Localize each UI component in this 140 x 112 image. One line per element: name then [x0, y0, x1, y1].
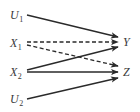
edges: [27, 15, 118, 99]
edge-u2-to-z: [27, 78, 118, 99]
node-y: Y: [123, 35, 131, 49]
node-x2: X2: [9, 65, 22, 81]
edge-x2-to-y: [27, 47, 118, 70]
edge-x1-to-z: [27, 45, 118, 66]
causal-diagram: U1X1X2U2YZ: [0, 0, 140, 112]
node-z: Z: [123, 65, 130, 79]
node-u2: U2: [10, 92, 23, 108]
edge-u1-to-y: [27, 15, 118, 37]
node-u1: U1: [10, 8, 23, 24]
nodes: U1X1X2U2YZ: [9, 8, 131, 108]
node-x1: X1: [9, 36, 22, 52]
